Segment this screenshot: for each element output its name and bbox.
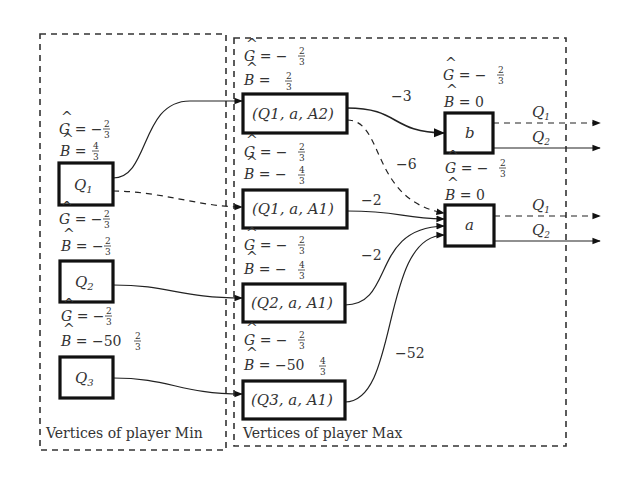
svg-text:3: 3	[299, 176, 305, 186]
svg-text:3: 3	[106, 317, 112, 327]
vertex-a: a	[445, 205, 494, 246]
vertex-q3: Q3	[60, 357, 113, 398]
annotation-a: G = − ^ 2 3 B = 0 ^	[444, 148, 506, 203]
svg-text:2: 2	[104, 209, 110, 219]
svg-text:2: 2	[299, 235, 305, 245]
annotation-q3-above: G = − ^ 2 3 B = −50 ^ 2 3	[60, 296, 141, 352]
svg-text:^: ^	[61, 109, 73, 125]
svg-text:^: ^	[246, 320, 258, 336]
svg-text:^: ^	[447, 175, 459, 191]
svg-text:(Q3, a, A1): (Q3, a, A1)	[251, 391, 333, 409]
svg-text:3: 3	[500, 169, 506, 179]
svg-text:3: 3	[299, 246, 305, 256]
annotation-q1aa2: G = − ^ 2 3 B = ^ 2 3	[243, 36, 305, 92]
svg-text:a: a	[465, 216, 474, 234]
edge-q1-to-q1aa1	[113, 191, 242, 207]
svg-text:4: 4	[299, 260, 305, 270]
svg-text:2: 2	[299, 142, 305, 152]
svg-text:3: 3	[299, 57, 305, 67]
svg-text:2: 2	[135, 331, 141, 341]
vertex-q1-a-a2: (Q1, a, A2)	[243, 94, 347, 133]
svg-text:3: 3	[320, 367, 326, 377]
edge-q1aa2-to-b	[347, 108, 444, 133]
edge-q2-to-q2aa1	[113, 285, 242, 298]
svg-text:4: 4	[299, 165, 305, 175]
annotation-b: G = − ^ 2 3 B = 0 ^	[443, 55, 504, 110]
vertex-q3-a-a1: (Q3, a, A1)	[243, 381, 345, 419]
out-label-b-q2: Q2	[532, 128, 550, 147]
max-frame-title: Vertices of player Max	[242, 425, 403, 441]
svg-text:2: 2	[299, 330, 305, 340]
svg-text:3: 3	[286, 82, 292, 92]
svg-text:3: 3	[104, 220, 110, 230]
vertex-b: b	[445, 113, 493, 153]
svg-text:(Q1, a, A2): (Q1, a, A2)	[252, 105, 334, 123]
svg-text:2: 2	[500, 158, 506, 168]
edge-q1aa1-to-a	[347, 211, 444, 219]
svg-text:2: 2	[498, 65, 504, 75]
svg-text:2: 2	[286, 71, 292, 81]
edge-q3-to-q3aa1	[113, 378, 242, 394]
svg-text:3: 3	[93, 152, 99, 162]
weight-minus-2-top: −2	[361, 192, 382, 208]
svg-text:3: 3	[299, 341, 305, 351]
svg-text:(Q1, a, A1): (Q1, a, A1)	[252, 200, 334, 218]
svg-text:^: ^	[246, 225, 258, 241]
weight-minus-6: −6	[396, 156, 417, 172]
svg-text:^: ^	[447, 148, 459, 164]
svg-text:3: 3	[135, 342, 141, 352]
svg-text:^: ^	[246, 36, 258, 52]
svg-text:^: ^	[63, 321, 75, 337]
svg-text:3: 3	[498, 76, 504, 86]
svg-text:(Q2, a, A1): (Q2, a, A1)	[251, 294, 333, 312]
svg-text:2: 2	[104, 119, 110, 129]
svg-text:4: 4	[93, 141, 99, 151]
out-label-b-q1: Q1	[532, 103, 550, 122]
vertex-q2-a-a1: (Q2, a, A1)	[243, 284, 345, 322]
annotation-q1aa1: G = − ^ 2 3 B = − ^ 4 3	[243, 132, 305, 186]
out-label-a-q2: Q2	[532, 221, 550, 240]
svg-text:^: ^	[62, 131, 74, 147]
svg-text:^: ^	[246, 60, 258, 76]
svg-text:^: ^	[63, 296, 75, 312]
vertex-q1-a-a1: (Q1, a, A1)	[243, 190, 347, 228]
svg-text:3: 3	[105, 247, 111, 257]
annotation-q2aa1: G = − ^ 2 3 B = − ^ 4 3	[243, 225, 305, 281]
svg-text:^: ^	[246, 154, 258, 170]
edge-q3aa1-to-a	[345, 235, 444, 402]
svg-text:^: ^	[445, 55, 457, 71]
svg-text:4: 4	[320, 356, 326, 366]
game-graph-diagram: Vertices of player Min Vertices of playe…	[0, 0, 632, 477]
svg-text:2: 2	[105, 236, 111, 246]
svg-text:3: 3	[104, 130, 110, 140]
edge-q2aa1-to-a	[345, 226, 444, 305]
svg-text:2: 2	[106, 306, 112, 316]
annotation-q1-above: G = − ^ 2 3 B = ^ 4 3	[59, 109, 110, 162]
svg-text:2: 2	[299, 46, 305, 56]
svg-text:b: b	[465, 124, 475, 142]
svg-text:^: ^	[246, 132, 258, 148]
annotation-q2-above: G = − ^ 2 3 B = − ^ 2 3	[59, 199, 111, 257]
weight-minus-52: −52	[395, 345, 425, 361]
svg-text:^: ^	[246, 249, 258, 265]
svg-text:3: 3	[299, 271, 305, 281]
svg-text:^: ^	[246, 345, 258, 361]
svg-text:^: ^	[446, 82, 458, 98]
min-frame-title: Vertices of player Min	[45, 425, 203, 441]
svg-text:^: ^	[61, 199, 73, 215]
out-label-a-q1: Q1	[532, 196, 550, 215]
svg-text:^: ^	[63, 226, 75, 242]
svg-text:3: 3	[299, 153, 305, 163]
weight-minus-3: −3	[391, 88, 412, 104]
edge-q1-to-q1aa2	[113, 101, 242, 178]
annotation-q3aa1: G = − ^ 2 3 B = −50 ^ 4 3	[243, 320, 326, 377]
weight-minus-2-bottom: −2	[361, 247, 382, 263]
